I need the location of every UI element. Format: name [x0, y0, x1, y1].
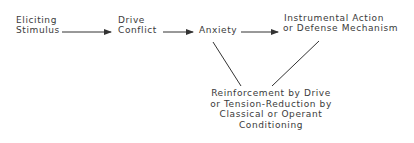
node-drive-conflict-line2: Conflict — [118, 25, 157, 35]
node-reinforcement-line4: Conditioning — [196, 120, 346, 131]
line-anxiety-to-reinforcement — [213, 42, 241, 86]
node-instrumental-action: Instrumental Action or Defense Mechanism — [283, 13, 398, 33]
node-instrumental-action-line2: or Defense Mechanism — [283, 23, 398, 33]
node-anxiety-line1: Anxiety — [199, 25, 237, 35]
node-eliciting-stimulus: Eliciting Stimulus — [16, 15, 60, 35]
anxiety-model-diagram: Eliciting Stimulus Drive Conflict Anxiet… — [0, 0, 414, 143]
node-reinforcement-line2: or Tension-Reduction by — [196, 99, 346, 110]
node-reinforcement-line1: Reinforcement by Drive — [196, 88, 346, 99]
node-drive-conflict-line1: Drive — [118, 15, 157, 25]
node-instrumental-action-line1: Instrumental Action — [283, 13, 398, 23]
node-reinforcement: Reinforcement by Drive or Tension-Reduct… — [196, 88, 346, 130]
node-eliciting-stimulus-line1: Eliciting — [16, 15, 60, 25]
node-drive-conflict: Drive Conflict — [118, 15, 157, 35]
node-reinforcement-line3: Classical or Operant — [196, 109, 346, 120]
node-anxiety: Anxiety — [199, 25, 237, 35]
node-eliciting-stimulus-line2: Stimulus — [16, 25, 60, 35]
line-action-to-reinforcement — [272, 41, 319, 86]
